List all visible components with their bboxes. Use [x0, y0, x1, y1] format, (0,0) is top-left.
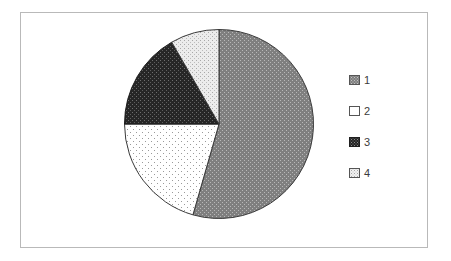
legend-item-2[interactable]: 2	[349, 104, 419, 118]
legend-swatch-white	[349, 106, 360, 116]
legend-swatch-light-dotted	[349, 168, 360, 178]
legend-swatch-gray-dotted	[349, 75, 360, 85]
legend-item-3[interactable]: 3	[349, 135, 419, 149]
legend-item-1[interactable]: 1	[349, 73, 419, 87]
legend-label-3: 3	[364, 137, 370, 148]
pie-chart-svg	[124, 24, 314, 224]
legend-label-4: 4	[364, 168, 370, 179]
legend-label-2: 2	[364, 106, 370, 117]
chart-plot-frame: 1 2 3 4	[20, 12, 428, 248]
chart-screenshot: 1 2 3 4	[0, 0, 451, 261]
pie-slice-group	[125, 30, 314, 219]
legend-swatch-dark-dotted	[349, 137, 360, 147]
legend-item-4[interactable]: 4	[349, 166, 419, 180]
chart-legend: 1 2 3 4	[349, 73, 419, 197]
pie-chart	[124, 24, 314, 224]
legend-label-1: 1	[364, 75, 370, 86]
